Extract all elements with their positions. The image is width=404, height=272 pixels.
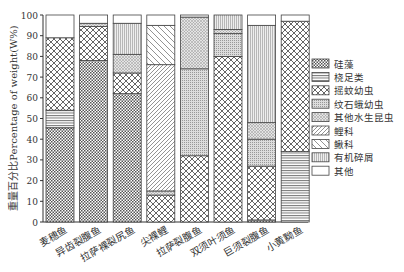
bar-3 <box>113 15 141 222</box>
legend-swatch <box>312 72 329 81</box>
y-tick-label: 20 <box>27 176 39 186</box>
y-tick-label: 90 <box>27 31 39 41</box>
bars <box>46 15 309 222</box>
bar-7 <box>248 15 276 222</box>
y-tick-label: 100 <box>21 11 38 21</box>
bar-segment <box>281 21 309 151</box>
bar-segment <box>46 110 74 128</box>
bar-segment <box>147 191 175 195</box>
bar-segment <box>113 23 141 54</box>
legend-swatch <box>312 86 329 95</box>
bar-segment <box>80 15 108 23</box>
bar-6 <box>214 15 242 222</box>
bar-segment <box>248 25 276 122</box>
legend-label: 其他水生昆虫 <box>334 112 394 123</box>
legend-label: 鳅科 <box>334 139 354 150</box>
bar-segment <box>80 61 108 222</box>
legend-label: 桡足类 <box>334 72 364 83</box>
bar-5 <box>180 15 208 222</box>
bar-segment <box>113 15 141 23</box>
y-tick-label: 40 <box>27 135 39 145</box>
bar-segment <box>180 156 208 222</box>
bar-segment <box>46 38 74 110</box>
bar-segment <box>147 195 175 222</box>
bar-segment <box>113 73 141 94</box>
bar-1 <box>46 15 74 222</box>
bar-segment <box>248 123 276 140</box>
legend-label: 鲤科 <box>334 126 354 137</box>
y-tick-label: 80 <box>27 52 39 62</box>
bar-segment <box>248 139 276 166</box>
stacked-bar-chart: 0102030405060708090100 麦穗鱼异齿裂腹鱼拉萨裸裂尻鱼尖裸鲤… <box>0 0 404 272</box>
bar-segment <box>180 17 208 69</box>
legend-swatch <box>312 126 329 135</box>
bar-segment <box>46 128 74 222</box>
legend-swatch <box>312 139 329 148</box>
legend-swatch <box>312 166 329 175</box>
bar-segment <box>113 94 141 222</box>
bar-segment <box>214 56 242 222</box>
bar-segment <box>248 15 276 25</box>
y-axis-title: 重量百分比Percentage of weight(W%) <box>7 25 19 211</box>
bar-8 <box>281 15 309 222</box>
legend-swatch <box>312 153 329 162</box>
bar-segment <box>46 15 74 38</box>
bar-segment <box>281 152 309 222</box>
bar-segment <box>80 26 108 60</box>
legend-swatch <box>312 59 329 68</box>
bar-segment <box>248 166 276 220</box>
legend-label: 有机碎屑 <box>334 152 374 163</box>
bar-segment <box>214 34 242 57</box>
bar-segment <box>180 69 208 156</box>
bar-segment <box>147 15 175 25</box>
bar-segment <box>214 29 242 33</box>
y-tick-label: 50 <box>27 114 39 124</box>
legend-label: 其他 <box>334 166 354 177</box>
x-tick-label: 小黄黝鱼 <box>264 223 305 253</box>
bar-segment <box>80 23 108 26</box>
y-tick-label: 60 <box>27 93 39 103</box>
legend-swatch <box>312 113 329 122</box>
y-tick-label: 10 <box>27 197 39 207</box>
legend-label: 硅藻 <box>334 59 354 70</box>
bar-segment <box>147 65 175 191</box>
legend-swatch <box>312 99 329 108</box>
y-tick-label: 70 <box>27 73 39 83</box>
x-axis-labels: 麦穗鱼异齿裂腹鱼拉萨裸裂尻鱼尖裸鲤拉萨裂腹鱼双须叶须鱼巨须裂腹鱼小黄黝鱼 <box>37 223 304 263</box>
y-tick-label: 0 <box>32 218 38 228</box>
bar-segment <box>113 54 141 73</box>
bar-segment <box>180 15 208 17</box>
bar-2 <box>80 15 108 222</box>
y-tick-label: 30 <box>27 155 39 165</box>
bar-segment <box>214 15 242 29</box>
legend: 硅藻桡足类摇蚊幼虫纹石蛾幼虫其他水生昆虫鲤科鳅科有机碎屑其他 <box>312 59 394 177</box>
bar-segment <box>281 15 309 21</box>
bar-4 <box>147 15 175 222</box>
bar-segment <box>147 25 175 64</box>
legend-label: 摇蚊幼虫 <box>334 85 374 96</box>
legend-label: 纹石蛾幼虫 <box>334 99 384 110</box>
